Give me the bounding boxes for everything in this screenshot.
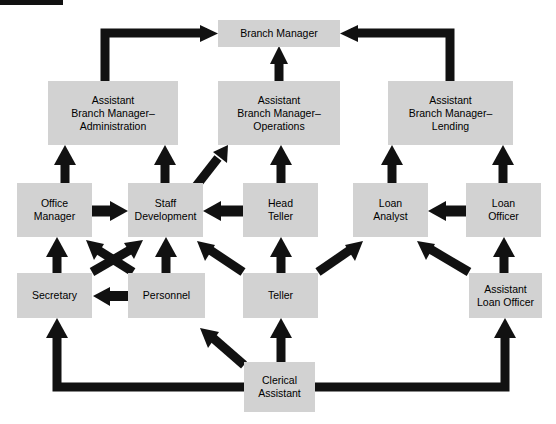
node-secretary[interactable]: Secretary xyxy=(17,273,92,318)
node-loan-analyst-label: Loan Analyst xyxy=(373,197,407,223)
node-abm-operations-label: Assistant Branch Manager– Operations xyxy=(237,94,320,133)
node-abm-lending[interactable]: Assistant Branch Manager– Lending xyxy=(388,81,513,145)
node-head-teller[interactable]: Head Teller xyxy=(243,183,318,237)
node-loan-officer[interactable]: Loan Officer xyxy=(466,183,541,237)
edge-loan-officer-to-loan-analyst xyxy=(428,201,466,221)
node-branch-manager-label: Branch Manager xyxy=(240,27,318,40)
edge-abm-lending-to-branch-manager xyxy=(340,25,450,81)
node-secretary-label: Secretary xyxy=(32,289,77,302)
edge-personnel-to-staff-development xyxy=(155,237,177,273)
node-staff-development[interactable]: Staff Development xyxy=(128,183,203,237)
edge-clerical-assistant-to-personnel xyxy=(200,328,244,365)
node-abm-admin-label: Assistant Branch Manager– Administration xyxy=(71,94,154,133)
edge-clerical-assistant-to-teller xyxy=(270,318,292,362)
edge-teller-to-loan-analyst xyxy=(318,241,363,272)
edge-abm-admin-to-branch-manager xyxy=(105,25,218,81)
node-loan-analyst[interactable]: Loan Analyst xyxy=(353,183,428,237)
edge-clerical-assistant-to-secretary xyxy=(46,318,244,387)
node-office-manager-label: Office Manager xyxy=(34,197,75,223)
node-abm-operations[interactable]: Assistant Branch Manager– Operations xyxy=(218,81,340,145)
edge-personnel-to-secretary xyxy=(93,287,128,306)
edge-loan-officer-to-abm-lending xyxy=(492,145,514,183)
org-chart-canvas: Branch Manager Assistant Branch Manager–… xyxy=(0,0,556,424)
edge-abm-operations-to-branch-manager xyxy=(270,46,288,81)
node-staff-development-label: Staff Development xyxy=(135,197,197,223)
node-teller[interactable]: Teller xyxy=(243,273,318,318)
edge-assistant-loan-officer-to-loan-analyst xyxy=(417,241,469,272)
node-teller-label: Teller xyxy=(268,289,293,302)
edge-loan-analyst-to-abm-lending xyxy=(381,145,403,183)
edge-office-manager-to-staff-development xyxy=(92,201,128,221)
edge-assistant-loan-officer-to-loan-officer xyxy=(493,237,515,273)
node-clerical-assistant-label: Clerical Assistant xyxy=(258,374,301,400)
edge-clerical-assistant-to-assistant-loan-officer xyxy=(315,318,516,387)
node-personnel-label: Personnel xyxy=(143,289,190,302)
node-head-teller-label: Head Teller xyxy=(268,197,293,223)
edge-teller-to-head-teller xyxy=(270,237,292,273)
node-personnel[interactable]: Personnel xyxy=(128,273,205,318)
node-abm-admin[interactable]: Assistant Branch Manager– Administration xyxy=(48,81,178,145)
edge-office-manager-to-abm-admin xyxy=(54,145,76,183)
node-loan-officer-label: Loan Officer xyxy=(488,197,519,223)
node-assistant-loan-officer-label: Assistant Loan Officer xyxy=(477,283,534,309)
edge-secretary-to-office-manager xyxy=(46,237,68,273)
edge-staff-development-to-abm-admin xyxy=(154,145,176,183)
node-clerical-assistant[interactable]: Clerical Assistant xyxy=(244,362,315,412)
edge-head-teller-to-abm-operations xyxy=(270,145,292,183)
edge-teller-to-staff-development xyxy=(197,241,243,272)
node-branch-manager[interactable]: Branch Manager xyxy=(218,20,340,47)
node-abm-lending-label: Assistant Branch Manager– Lending xyxy=(409,94,492,133)
node-assistant-loan-officer[interactable]: Assistant Loan Officer xyxy=(469,273,542,318)
edge-head-teller-to-staff-development xyxy=(203,201,243,221)
node-office-manager[interactable]: Office Manager xyxy=(17,183,92,237)
